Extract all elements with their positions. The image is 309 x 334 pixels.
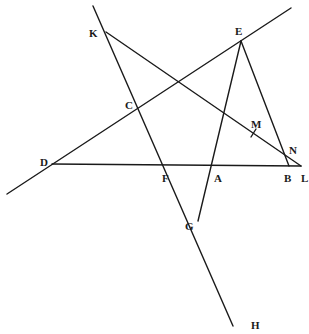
line-KH xyxy=(93,6,233,326)
label-K: K xyxy=(89,27,98,39)
label-H: H xyxy=(251,319,260,331)
label-G: G xyxy=(185,220,194,232)
label-B: B xyxy=(284,172,292,184)
segment-EG xyxy=(198,41,241,221)
segment-EB xyxy=(241,41,289,166)
segment-DL xyxy=(52,164,301,166)
segment-KL xyxy=(106,32,301,166)
label-D: D xyxy=(40,156,48,168)
geometry-diagram: K E C M N D F A B L G H xyxy=(0,0,309,334)
label-E: E xyxy=(235,25,242,37)
label-N: N xyxy=(289,144,297,156)
label-M: M xyxy=(251,118,262,130)
label-L: L xyxy=(301,172,308,184)
label-C: C xyxy=(125,99,133,111)
label-A: A xyxy=(214,172,222,184)
label-F: F xyxy=(162,172,169,184)
